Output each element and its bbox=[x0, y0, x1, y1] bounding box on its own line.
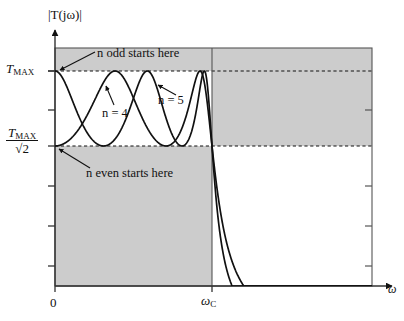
annotation-curve-label-n4: n = 4 bbox=[102, 107, 128, 120]
annotation-curve-label-n5: n = 5 bbox=[158, 94, 184, 107]
y-tick-label-tmax-sqrt2: TMAX √2 bbox=[6, 126, 38, 155]
stopband-upper-shade bbox=[212, 48, 372, 146]
x-axis-ticks bbox=[55, 286, 212, 292]
fraction-denominator: √2 bbox=[6, 141, 38, 155]
y-tick-label-tmax: TMAX bbox=[6, 62, 34, 75]
x-axis-label: ω bbox=[388, 283, 396, 295]
annotation-n-odd-start: n odd starts here bbox=[97, 47, 179, 60]
y-axis-ticks bbox=[48, 71, 55, 266]
plot-canvas bbox=[0, 0, 404, 321]
chebyshev-magnitude-response-figure: |T(jω)| TMAX TMAX √2 0 ωC ω n odd starts… bbox=[0, 0, 404, 321]
x-tick-label-cutoff: ωC bbox=[201, 294, 216, 307]
x-tick-label-zero: 0 bbox=[50, 296, 57, 309]
annotation-n-even-start: n even starts here bbox=[86, 167, 173, 180]
fraction-numerator: TMAX bbox=[6, 126, 38, 141]
tmax-subscript: MAX bbox=[13, 67, 34, 77]
leader-n4 bbox=[106, 86, 114, 105]
y-axis-label: |T(jω)| bbox=[48, 8, 82, 21]
y-axis-label-text: |T(jω)| bbox=[48, 7, 82, 22]
